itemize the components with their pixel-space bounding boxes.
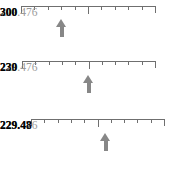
- tick-6: [102, 61, 103, 65]
- tick-3: [61, 6, 62, 10]
- axis-2: [22, 61, 155, 75]
- tick-7: [124, 119, 125, 123]
- tick-4: [84, 119, 85, 123]
- tick-4: [75, 61, 76, 65]
- tick-3: [62, 61, 63, 65]
- tick-9: [142, 6, 143, 10]
- tick-9: [151, 119, 152, 123]
- tick-major-center: [89, 61, 90, 69]
- tick-end-right: [155, 61, 156, 68]
- tick-7: [115, 6, 116, 10]
- tick-9: [142, 61, 143, 65]
- tick-8: [137, 119, 138, 123]
- arrow-shaft: [60, 26, 64, 37]
- tick-3: [71, 119, 72, 123]
- tick-2: [49, 61, 50, 65]
- tick-2: [58, 119, 59, 123]
- tick-major-center: [88, 6, 89, 14]
- axis-1: [21, 6, 155, 20]
- axis-3: [31, 119, 164, 133]
- tick-end-right: [164, 119, 165, 126]
- number-line-figure: 200 229.476 300 229 229.476 230: [0, 0, 184, 171]
- tick-major-center: [98, 119, 99, 127]
- tick-end-right: [155, 6, 156, 13]
- tick-6: [111, 119, 112, 123]
- arrow-shaft: [87, 82, 91, 93]
- tick-4: [75, 6, 76, 10]
- tick-7: [115, 61, 116, 65]
- right-endpoint-label-3: 229.48: [0, 119, 32, 132]
- tick-6: [101, 6, 102, 10]
- right-endpoint-label-2: 230: [0, 61, 17, 74]
- tick-2: [48, 6, 49, 10]
- tick-8: [128, 6, 129, 10]
- right-endpoint-label-1: 300: [0, 6, 17, 19]
- arrow-shaft: [104, 140, 108, 151]
- tick-1: [44, 119, 45, 123]
- tick-8: [128, 61, 129, 65]
